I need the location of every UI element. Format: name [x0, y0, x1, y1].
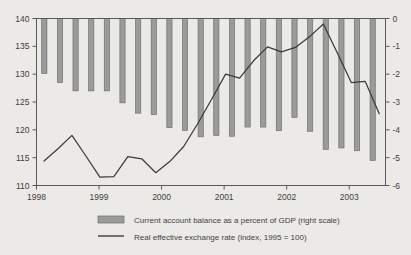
- left-axis-tick-label: 125: [15, 97, 29, 107]
- left-axis-tick-label: 130: [15, 69, 29, 79]
- x-axis-tick-label: 1998: [27, 192, 46, 202]
- x-axis-tick-label: 2002: [277, 192, 296, 202]
- bar: [214, 19, 219, 136]
- bar: [354, 19, 359, 151]
- bar: [167, 19, 172, 128]
- x-axis-tick-label: 2003: [340, 192, 359, 202]
- bar: [136, 19, 141, 114]
- left-axis-tick-label: 115: [16, 153, 30, 163]
- bar: [42, 19, 47, 74]
- left-axis-tick-label: 135: [15, 41, 29, 51]
- left-axis-tick-label: 120: [15, 125, 29, 135]
- bar: [245, 19, 250, 128]
- right-axis-tick-label: -3: [393, 97, 401, 107]
- bar: [89, 19, 94, 91]
- x-axis-tick-label: 2001: [215, 192, 234, 202]
- bar: [261, 19, 266, 128]
- right-axis-tick-label: -5: [393, 153, 401, 163]
- legend-bar-swatch: [98, 216, 124, 223]
- bar: [229, 19, 234, 137]
- bar: [292, 19, 297, 118]
- legend-label-current-account: Current account balance as a percent of …: [134, 216, 340, 225]
- bar: [182, 19, 187, 131]
- chart-figure: 110115120125130135140 -6-5-4-3-2-10 1998…: [0, 0, 411, 255]
- bar: [120, 19, 125, 103]
- bar: [104, 19, 109, 91]
- bar: [73, 19, 78, 91]
- right-axis-tick-label: -4: [393, 125, 401, 135]
- x-axis-tick-label: 2000: [152, 192, 171, 202]
- left-axis-tick-label: 140: [15, 14, 29, 24]
- bar: [339, 19, 344, 148]
- bar: [151, 19, 156, 115]
- right-axis-tick-label: -2: [393, 69, 401, 79]
- right-axis-tick-label: -6: [393, 181, 401, 191]
- bar: [57, 19, 62, 83]
- left-axis-tick-label: 110: [16, 181, 30, 191]
- bar: [276, 19, 281, 131]
- bar: [370, 19, 375, 161]
- right-axis-tick-label: 0: [393, 14, 398, 24]
- right-axis-tick-label: -1: [393, 41, 401, 51]
- bar: [323, 19, 328, 150]
- x-axis-tick-label: 1999: [90, 192, 109, 202]
- legend-label-exchange-rate: Real effective exchange rate (index, 199…: [134, 233, 307, 242]
